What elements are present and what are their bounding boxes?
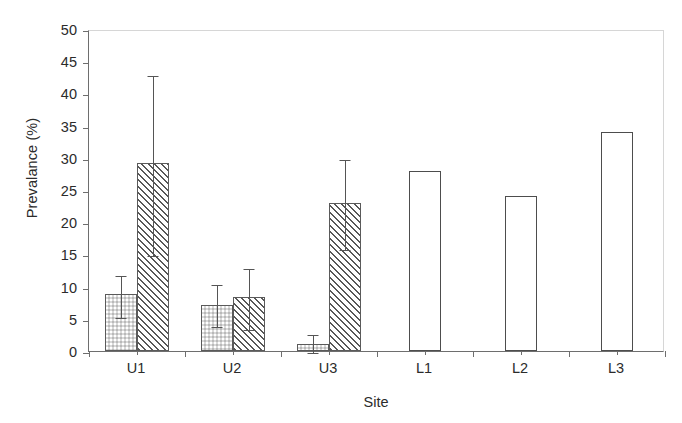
- x-tick-mark: [473, 351, 474, 357]
- y-tick-mark: [83, 192, 89, 193]
- y-tick-label: 20: [37, 215, 77, 231]
- error-cap-upper: [116, 276, 127, 277]
- error-bar-u2-series-1-dotted: [217, 285, 218, 327]
- x-tick-mark: [89, 351, 90, 357]
- x-tick-mark: [665, 351, 666, 357]
- y-tick-label: 25: [37, 183, 77, 199]
- x-minor-tick-mark: [425, 351, 426, 355]
- x-tick-mark: [569, 351, 570, 357]
- x-tick-mark: [185, 351, 186, 357]
- y-tick-mark: [83, 95, 89, 96]
- x-minor-tick-mark: [137, 351, 138, 355]
- y-tick-label: 15: [37, 247, 77, 263]
- y-tick-mark: [83, 289, 89, 290]
- x-minor-tick-mark: [233, 351, 234, 355]
- error-cap-upper: [308, 335, 319, 336]
- bar-l2-series-3-open: [505, 196, 537, 351]
- x-tick-label-l2: L2: [480, 360, 560, 376]
- x-tick-label-l1: L1: [384, 360, 464, 376]
- y-tick-mark: [83, 321, 89, 322]
- error-bar-u2-series-2-hatched: [249, 269, 250, 330]
- y-tick-label: 50: [37, 22, 77, 38]
- x-axis-title: Site: [88, 394, 664, 410]
- y-tick-label: 10: [37, 280, 77, 296]
- error-cap-lower: [340, 250, 351, 251]
- x-tick-label-u1: U1: [96, 360, 176, 376]
- bar-l1-series-3-open: [409, 171, 441, 351]
- error-cap-upper: [148, 76, 159, 77]
- error-cap-lower: [212, 327, 223, 328]
- error-cap-lower: [244, 330, 255, 331]
- y-tick-label: 35: [37, 119, 77, 135]
- y-tick-label: 0: [37, 344, 77, 360]
- error-cap-lower: [116, 318, 127, 319]
- plot-area: [88, 30, 664, 352]
- x-tick-label-l3: L3: [576, 360, 656, 376]
- bar-chart-figure: Prevalance (%) Site 05101520253035404550…: [0, 0, 682, 423]
- y-tick-mark: [83, 128, 89, 129]
- x-minor-tick-mark: [521, 351, 522, 355]
- bar-l3-series-3-open: [601, 132, 633, 351]
- y-tick-mark: [83, 63, 89, 64]
- x-tick-label-u2: U2: [192, 360, 272, 376]
- x-minor-tick-mark: [329, 351, 330, 355]
- x-tick-mark: [281, 351, 282, 357]
- error-bar-u3-series-2-hatched: [345, 160, 346, 250]
- x-minor-tick-mark: [617, 351, 618, 355]
- error-cap-lower: [148, 256, 159, 257]
- y-tick-label: 5: [37, 312, 77, 328]
- y-tick-mark: [83, 31, 89, 32]
- error-cap-upper: [340, 160, 351, 161]
- x-tick-label-u3: U3: [288, 360, 368, 376]
- x-tick-mark: [377, 351, 378, 357]
- error-cap-lower: [308, 353, 319, 354]
- y-tick-label: 40: [37, 86, 77, 102]
- y-tick-label: 45: [37, 54, 77, 70]
- y-tick-mark: [83, 224, 89, 225]
- error-cap-upper: [212, 285, 223, 286]
- error-cap-upper: [244, 269, 255, 270]
- y-tick-mark: [83, 160, 89, 161]
- y-tick-mark: [83, 256, 89, 257]
- error-bar-u1-series-2-hatched: [153, 76, 154, 256]
- error-bar-u1-series-1-dotted: [121, 276, 122, 318]
- y-tick-label: 30: [37, 151, 77, 167]
- error-bar-u3-series-1-dotted: [313, 335, 314, 353]
